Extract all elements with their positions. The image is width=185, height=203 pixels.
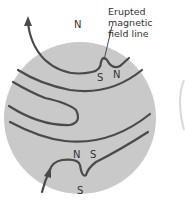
callout-label: Erupted magnetic field line xyxy=(108,6,185,39)
bottom-loop-n-label: N xyxy=(73,150,80,160)
top-loop-s-label: S xyxy=(97,73,103,83)
top-arrow-head-icon xyxy=(24,16,32,26)
south-pole-label: S xyxy=(77,186,83,196)
north-pole-label: N xyxy=(74,20,81,30)
callout-line1: Erupted magnetic xyxy=(108,6,185,28)
bottom-loop-s-label: S xyxy=(90,150,96,160)
callout-line2: field line xyxy=(108,28,185,39)
partial-disk-edge xyxy=(180,80,184,130)
solar-disk xyxy=(4,42,156,194)
top-loop-n-label: N xyxy=(113,70,120,80)
